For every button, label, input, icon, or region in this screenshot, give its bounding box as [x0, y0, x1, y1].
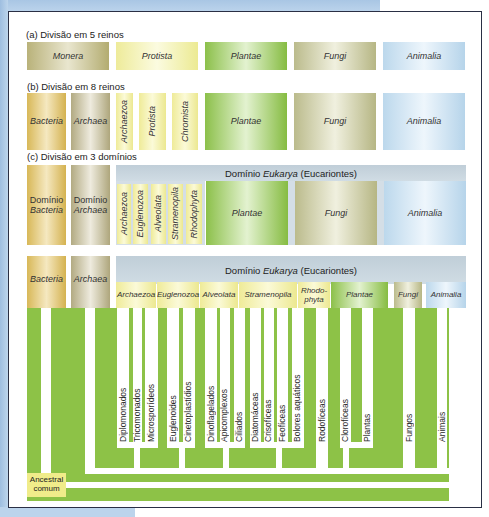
box-plantae: Plantae: [205, 42, 287, 70]
group-fungi: Fungi: [394, 282, 422, 308]
leaf-cinetoplastidios: Cinetoplastídios: [183, 312, 193, 442]
leaf-diplomonados: Diplomonados: [118, 312, 128, 442]
label-stramenopila-c: Stramenopila: [170, 187, 180, 240]
label-protista: Protista: [147, 106, 157, 137]
box-plantae-b: Plantae: [205, 93, 287, 150]
box-stramenopila-c: Stramenopila: [168, 184, 183, 244]
stem-stramenopila: [276, 442, 282, 474]
box-monera: Monera: [27, 42, 109, 70]
stem-alveolata: [223, 442, 229, 474]
label-rhodophyta-c: Rhodophyta: [189, 190, 199, 239]
section-b-title: (b) Divisão em 8 reinos: [27, 81, 125, 92]
box-animalia-b: Animalia: [383, 93, 465, 150]
leaf-diatomaceas: Diatomáceas: [250, 312, 260, 442]
domain-bacteria-line2: Bacteria: [30, 205, 63, 215]
leaf-apicomplexos: Apicomplexos: [219, 312, 229, 442]
domain-archaea-line1: Domínio: [74, 195, 108, 205]
label-archaezoa-c: Archaezoa: [119, 192, 129, 235]
label-archaezoa: Archaezoa: [119, 100, 129, 143]
common-ancestor-label: Ancestral comum: [27, 473, 66, 497]
leaf-microsporideos: Microsporídeos: [146, 312, 156, 442]
rhodophyta-line2: phyta: [304, 295, 324, 304]
background-strip-bottom: [0, 507, 135, 517]
box-fungi: Fungi: [294, 42, 376, 70]
box-domain-archaea: Domínio Archaea: [71, 165, 110, 245]
leaf-cloroficeas: Clorofíceas: [340, 312, 350, 442]
eukarya-name: Eukarya: [263, 168, 298, 179]
box-archaea: Archaea: [71, 93, 110, 150]
leaf-animais: Animais: [437, 312, 447, 442]
stem-euglenozoa: [179, 442, 185, 474]
group-archaezoa: Archaezoa: [116, 282, 156, 308]
box-archaea-d: Archaea: [71, 256, 110, 308]
box-archaezoa: Archaezoa: [116, 93, 133, 150]
background-strip-left: [0, 0, 8, 517]
box-chromista: Chromista: [172, 93, 198, 150]
box-domain-bacteria: Domínio Bacteria: [27, 165, 66, 245]
section-a-title: (a) Divisão em 5 reinos: [26, 29, 124, 40]
leaf-bolores-aquaticos: Bolores aquáticos: [292, 312, 302, 442]
label-chromista: Chromista: [180, 101, 190, 142]
domain-eukarya-bar-d: Domínio Eukarya (Eucariontes): [116, 256, 466, 284]
eukarya-prefix: Domínio: [225, 168, 263, 179]
tree-root-channel: [39, 482, 449, 488]
leaf-feoficeas: Feofíceas: [277, 312, 287, 442]
stem-plantae: [343, 442, 349, 474]
box-rhodophyta-c: Rhodophyta: [186, 184, 202, 244]
box-fungi-c: Fungi: [295, 181, 377, 245]
section-c-title: (c) Divisão em 3 domínios: [27, 151, 137, 162]
rhodophyta-line1: Rhodo-: [301, 286, 327, 295]
branch-bacteria: [41, 308, 51, 488]
group-plantae: Plantae: [331, 282, 388, 308]
leaf-tricomonados: Tricomonados: [132, 312, 142, 442]
group-rhodophyta: Rhodo- phyta: [298, 282, 330, 308]
leaf-plantas: Plantas: [362, 312, 372, 442]
group-alveolata: Alveolata: [200, 282, 238, 308]
box-animalia-c: Animalia: [384, 181, 466, 245]
leaf-crisoficeas: Crisofíceas: [263, 312, 273, 442]
eukarya-suffix: (Eucariontes): [298, 168, 357, 179]
box-protista-b: Protista: [139, 93, 166, 150]
domain-archaea-line2: Archaea: [74, 205, 108, 215]
stem-archaezoa: [134, 442, 140, 474]
domain-bacteria-line1: Domínio: [30, 195, 64, 205]
box-bacteria: Bacteria: [27, 93, 66, 150]
group-stramenopila: Stramenopila: [239, 282, 297, 308]
box-protista: Protista: [116, 42, 198, 70]
leaf-rodoficeas: Rodofíceas: [317, 312, 327, 442]
branch-archaea: [85, 308, 95, 474]
label-euglenozoa-c: Euglenozoa: [135, 190, 145, 238]
eukarya-name-d: Eukarya: [263, 265, 298, 276]
box-animalia: Animalia: [383, 42, 465, 70]
box-plantae-c: Plantae: [206, 181, 288, 245]
box-archaezoa-c: Archaezoa: [117, 184, 131, 244]
leaf-ciliados: Ciliados: [234, 312, 244, 442]
box-bacteria-d: Bacteria: [27, 256, 66, 308]
box-fungi-b: Fungi: [294, 93, 376, 150]
leaf-euglenoides: Euglenoides: [168, 312, 178, 442]
domain-eukarya-bar: Domínio Eukarya (Eucariontes): [116, 165, 466, 181]
ancestor-line2: comum: [30, 485, 63, 494]
box-euglenozoa-c: Euglenozoa: [133, 184, 148, 244]
group-euglenozoa: Euglenozoa: [157, 282, 199, 308]
box-alveolata-c: Alveolata: [151, 184, 166, 244]
leaf-dinoflagelados: Dinoflagelados: [206, 312, 216, 442]
eukarya-prefix-d: Domínio: [225, 265, 263, 276]
group-animalia: Animalia: [426, 282, 466, 308]
phylogenetic-tree: Diplomonados Tricomonados Microsporídeos…: [27, 308, 457, 501]
leaf-fungos: Fungos: [404, 312, 414, 442]
eukarya-suffix-d: (Eucariontes): [298, 265, 357, 276]
label-alveolata-c: Alveolata: [153, 195, 163, 232]
